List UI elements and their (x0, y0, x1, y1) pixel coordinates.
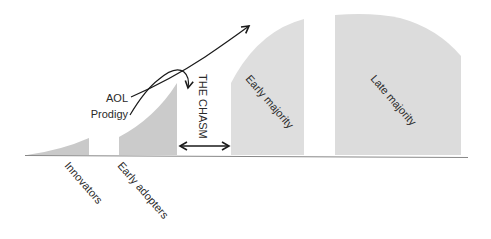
early-majority-segment (231, 19, 304, 155)
innovators-label: Innovators (62, 159, 105, 206)
prodigy-label: Prodigy (91, 108, 129, 120)
late-majority-segment (335, 14, 461, 155)
chasm-diagram: AOL Prodigy THE CHASM Innovators Early a… (0, 0, 491, 239)
innovators-segment (27, 138, 89, 155)
aol-label: AOL (106, 92, 128, 104)
chasm-label: THE CHASM (197, 74, 209, 139)
early-adopters-label: Early adopters (115, 159, 171, 221)
baseline (25, 156, 468, 158)
